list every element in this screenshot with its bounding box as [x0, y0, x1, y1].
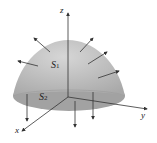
surface-label-s1: S1: [51, 60, 60, 70]
paraboloid-diagram: z y x S1 S2: [0, 0, 157, 143]
x-axis-label: x: [15, 126, 19, 135]
surface-label-s2: S2: [39, 92, 48, 102]
diagram-graphics: [0, 0, 157, 143]
z-axis-label: z: [60, 6, 64, 15]
paraboloid-s1: [13, 40, 125, 96]
y-axis-label: y: [141, 111, 145, 120]
